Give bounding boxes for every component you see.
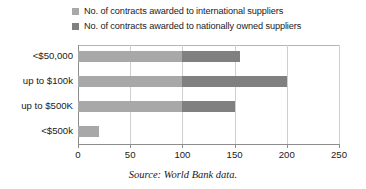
tick-label: 250 [331,149,347,161]
legend-item-international: No. of contracts awarded to internationa… [0,4,366,19]
source-caption: Source: World Bank data. [0,168,366,181]
category-label: <$500k [41,125,73,137]
tick-label: 200 [279,149,295,161]
category-label: <$50,000 [33,50,73,62]
chart-figure: No. of contracts awarded to internationa… [0,0,366,189]
tick-label: 0 [75,149,80,161]
tick-mark [287,144,288,148]
tick-mark [339,144,340,148]
bar-segment [78,126,99,137]
x-axis-line [78,144,339,145]
chart-legend: No. of contracts awarded to internationa… [0,4,366,34]
bar-segment [182,76,286,87]
bar-row: <$500k [78,126,339,137]
bar-row: <$50,000 [78,51,339,62]
plot-area: <$50,000up to $100kup to $500K<$500k [78,45,339,144]
bar-segment [78,51,182,62]
bar-segment [78,76,182,87]
tick-label: 100 [174,149,190,161]
legend-item-national: No. of contracts awarded to nationally o… [0,19,366,34]
legend-label-national: No. of contracts awarded to nationally o… [84,21,301,32]
tick-label: 150 [227,149,243,161]
bar-row: up to $100k [78,76,339,87]
bar-row: up to $500K [78,101,339,112]
tick-label: 50 [125,149,136,161]
tick-mark [78,144,79,148]
bar-segment [182,51,239,62]
plot-top-border [78,45,339,46]
tick-mark [130,144,131,148]
tick-mark [235,144,236,148]
bar-segment [182,101,234,112]
legend-swatch-national [72,23,79,30]
category-label: up to $100k [23,75,73,87]
legend-swatch-international [72,8,79,15]
legend-label-international: No. of contracts awarded to internationa… [84,6,283,17]
category-label: up to $500K [21,100,73,112]
bar-segment [78,101,182,112]
gridline-250 [339,45,340,144]
tick-mark [182,144,183,148]
x-axis: 050100150200250 [78,144,339,164]
